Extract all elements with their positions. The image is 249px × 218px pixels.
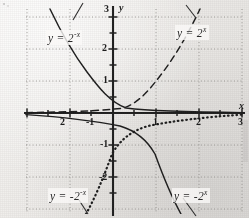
leader-top-right xyxy=(186,5,196,18)
leader-bottom-right xyxy=(183,198,196,216)
curve-2-neg-x xyxy=(50,9,243,113)
leader-top-left xyxy=(73,3,83,20)
tick-marks xyxy=(27,17,242,193)
curve-neg-2-x xyxy=(26,115,181,214)
leader-bottom-left xyxy=(79,200,88,214)
exponential-functions-figure: y = 2-x y = 2x y = -2-x y = -2x y x 3 2 … xyxy=(0,0,249,218)
graph-canvas xyxy=(0,0,249,218)
scan-artifacts xyxy=(3,3,248,162)
